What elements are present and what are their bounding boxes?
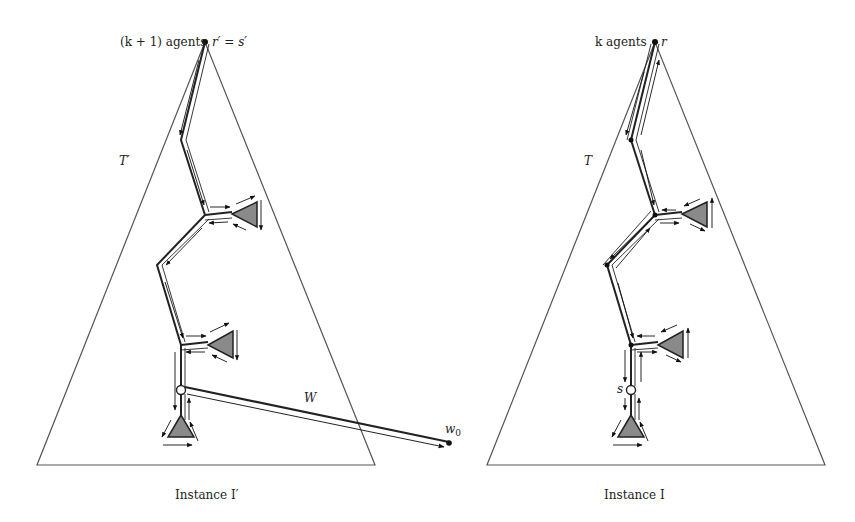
subtree-2	[208, 331, 233, 358]
left-root-label: r′ = s′	[212, 35, 247, 49]
right-path	[603, 42, 682, 420]
right-root-label: r	[661, 35, 667, 49]
subtree-2	[658, 331, 683, 358]
left-path	[157, 42, 232, 420]
subtree-3	[168, 415, 194, 437]
subtree-3	[618, 415, 644, 437]
left-agents-label: (k + 1) agents	[120, 35, 206, 49]
left-instance	[37, 39, 452, 465]
branch-node-3	[605, 263, 610, 268]
left-tree-label: T′	[119, 154, 130, 168]
right-agents-label: k agents	[595, 35, 647, 49]
walk-w	[185, 387, 449, 447]
branch-node-1	[629, 138, 634, 143]
branch-node-2	[653, 213, 658, 218]
subtree-1	[682, 202, 707, 227]
right-instance	[487, 39, 825, 465]
subtree-1	[232, 202, 257, 227]
walk-label: W	[304, 391, 316, 405]
branch-node-4	[629, 343, 634, 348]
walk-end-node	[446, 440, 452, 446]
walk-end-label: w0	[445, 422, 461, 438]
diagram-canvas	[0, 0, 855, 522]
right-caption: Instance I	[604, 488, 665, 502]
right-tree-label: T	[584, 154, 592, 168]
tree-t-outline	[487, 42, 825, 465]
root-node-r	[652, 39, 658, 45]
tree-t-prime-outline	[37, 42, 375, 465]
walk-end-label-main: w	[445, 422, 455, 436]
walk-end-label-subscript: 0	[455, 428, 461, 438]
start-label: s	[617, 382, 623, 396]
left-caption: Instance I′	[175, 488, 238, 502]
start-node-s	[627, 386, 636, 395]
junction-node-open	[177, 386, 186, 395]
